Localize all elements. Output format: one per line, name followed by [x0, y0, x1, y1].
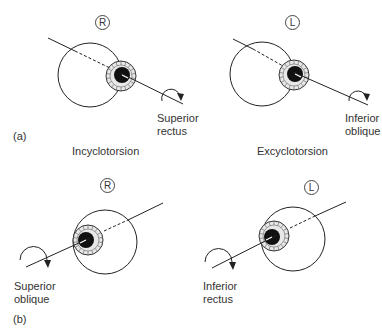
caption-excyclotorsion: Excyclotorsion — [257, 145, 328, 158]
muscle-label-a-right-2: rectus — [157, 125, 187, 138]
panel-label-a: (a) — [13, 130, 26, 143]
side-marker-b-right: R — [100, 178, 115, 193]
muscle-label-b-left-1: Inferior — [203, 280, 237, 293]
panel-label-b: (b) — [13, 313, 26, 326]
eye-a-right — [48, 38, 184, 107]
eye-b-left — [205, 202, 346, 271]
side-marker-a-left: L — [285, 15, 300, 30]
muscle-label-b-right-2: oblique — [14, 293, 49, 306]
eye-b-right — [20, 203, 163, 274]
muscle-label-b-right-1: Superior — [14, 280, 56, 293]
muscle-label-a-left-2: oblique — [345, 125, 380, 138]
caption-incyclotorsion: Incyclotorsion — [72, 145, 139, 158]
muscle-label-b-left-2: rectus — [203, 293, 233, 306]
muscle-label-a-right-1: Superior — [157, 112, 199, 125]
side-marker-b-left: L — [304, 180, 319, 195]
eye-a-left — [230, 39, 370, 106]
side-marker-a-right: R — [95, 15, 110, 30]
muscle-label-a-left-1: Inferior — [345, 112, 379, 125]
rotation-arrow-icon — [349, 91, 366, 101]
rotation-arrow-icon — [20, 247, 47, 260]
diagram-canvas — [0, 0, 382, 336]
